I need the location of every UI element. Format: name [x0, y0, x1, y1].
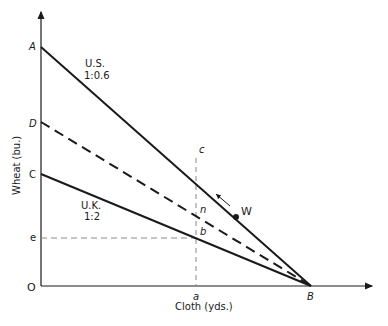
label-d: D: [29, 118, 37, 129]
us-line: [41, 47, 311, 286]
label-c-upper: C: [29, 169, 36, 180]
label-w: W: [241, 205, 252, 218]
us-name-label: U.S.: [85, 58, 105, 69]
trade-diagram: Cloth (yds.) Wheat (bu.) O A D C e a B c…: [0, 0, 388, 326]
x-axis-label: Cloth (yds.): [175, 301, 233, 312]
label-b-upper: B: [307, 291, 314, 302]
y-axis-label: Wheat (bu.): [11, 136, 22, 195]
origin-label: O: [27, 281, 36, 294]
label-b-lower: b: [200, 226, 206, 237]
point-w: [233, 214, 239, 220]
label-a-lower: a: [193, 291, 199, 302]
us-ratio-label: 1:0.6: [84, 70, 110, 81]
uk-ratio-label: 1:2: [84, 211, 100, 222]
label-n: n: [200, 204, 206, 215]
uk-line: [41, 174, 311, 286]
label-a-upper: A: [28, 41, 36, 52]
label-c-lower: c: [199, 144, 205, 155]
label-e: e: [30, 232, 36, 243]
uk-name-label: U.K.: [81, 200, 101, 211]
